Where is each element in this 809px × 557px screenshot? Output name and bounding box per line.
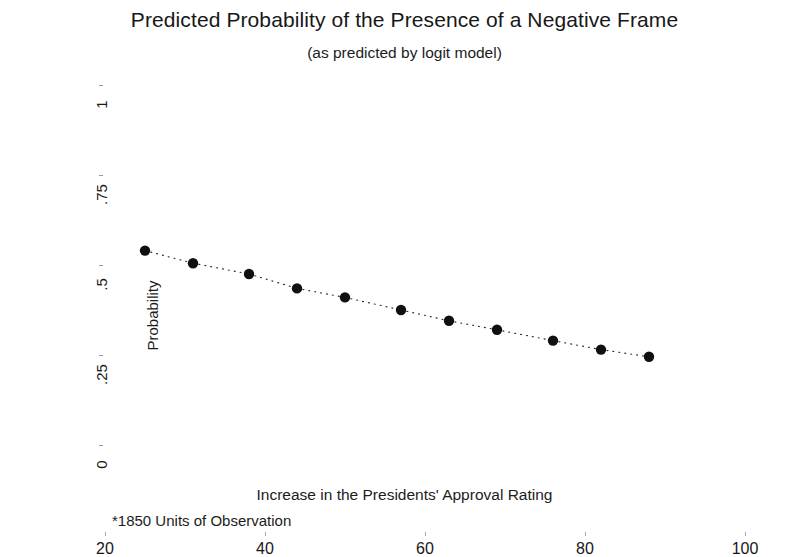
y-tick-mark: [99, 265, 103, 266]
data-point: [644, 352, 654, 362]
x-tick-mark: [265, 532, 266, 536]
x-tick-label: 80: [560, 540, 610, 557]
y-tick-mark: [99, 445, 103, 446]
footnote: *1850 Units of Observation: [112, 512, 291, 529]
data-point: [548, 335, 558, 345]
connector-segment: [601, 350, 649, 357]
x-tick-mark: [105, 532, 106, 536]
page-title: Predicted Probability of the Presence of…: [0, 8, 809, 32]
y-tick-label: 1: [93, 85, 110, 125]
connector-segment: [297, 288, 345, 297]
data-point: [596, 344, 606, 354]
connector-segment: [497, 330, 553, 341]
y-tick-mark: [99, 85, 103, 86]
x-tick-mark: [425, 532, 426, 536]
y-tick-mark: [99, 355, 103, 356]
connector-segment: [449, 321, 497, 330]
x-tick-label: 20: [80, 540, 130, 557]
data-markers: [140, 245, 654, 362]
x-tick-label: 40: [240, 540, 290, 557]
x-tick-label: 60: [400, 540, 450, 557]
y-tick-label: 0: [93, 445, 110, 485]
data-point: [244, 269, 254, 279]
data-point: [396, 305, 406, 315]
data-point: [140, 245, 150, 255]
data-point: [292, 283, 302, 293]
connector-segment: [249, 274, 297, 288]
chart-subtitle: (as predicted by logit model): [0, 44, 809, 62]
connector-segment: [345, 297, 401, 310]
plot-area: Probability 0.25.5.751 20406080100: [105, 85, 745, 445]
y-tick-label: .75: [93, 175, 110, 215]
x-tick-mark: [745, 532, 746, 536]
y-axis-title: Probability: [144, 256, 161, 376]
data-point: [340, 292, 350, 302]
x-tick-mark: [585, 532, 586, 536]
y-tick-label: .25: [93, 355, 110, 395]
x-tick-label: 100: [720, 540, 770, 557]
y-tick-label: .5: [93, 265, 110, 305]
data-point: [444, 316, 454, 326]
chart-figure: Predicted Probability of the Presence of…: [0, 0, 809, 557]
plot-canvas: [105, 85, 745, 445]
connector-segment: [193, 263, 249, 274]
connector-lines: [145, 251, 649, 357]
data-point: [188, 258, 198, 268]
y-tick-mark: [99, 175, 103, 176]
connector-segment: [553, 341, 601, 350]
connector-segment: [401, 310, 449, 321]
x-axis-title: Increase in the Presidents' Approval Rat…: [0, 486, 809, 504]
data-point: [492, 325, 502, 335]
